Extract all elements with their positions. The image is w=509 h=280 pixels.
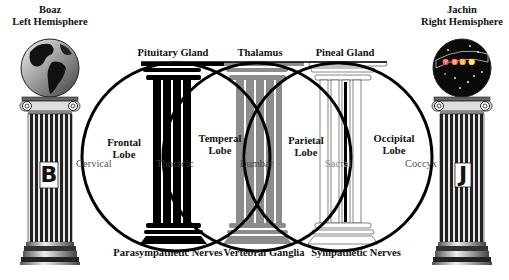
lumbar-label: Lumbar [240,158,273,170]
temperal-lobe-line2: Lobe [192,145,248,157]
parietal-lobe-label: Parietal Lobe [278,135,334,159]
white-pillar-core [344,82,347,222]
cervical-label: Cervical [76,158,112,170]
celestial-globe-icon: ♈ ♉ ♊ ♋ [433,39,491,97]
frontal-lobe-line1: Frontal [98,137,150,149]
jachin-subtitle: Right Hemisphere [418,16,506,28]
sympathetic-nerves-label: Sympathetic Nerves [296,247,416,259]
boaz-pillar [20,39,80,265]
pineal-gland-label: Pineal Gland [300,47,390,59]
svg-text:♈ ♉ ♊ ♋: ♈ ♉ ♊ ♋ [442,58,476,66]
jachin-letter: J [455,164,471,186]
parietal-lobe-line1: Parietal [278,135,334,147]
occipital-lobe-label: Occipital Lobe [364,133,424,157]
sacral-label: Sacral [325,158,351,170]
thoracic-label: Thoracic [156,158,193,170]
jachin-pillar: ♈ ♉ ♊ ♋ [432,39,492,265]
boaz-subtitle: Left Hemisphere [8,16,92,28]
boaz-letter: B [40,164,58,186]
pituitary-gland-label: Pituitary Gland [118,47,228,59]
temperal-lobe-line1: Temperal [192,133,248,145]
temperal-lobe-label: Temperal Lobe [192,133,248,157]
jachin-name: Jachin [418,4,506,16]
boaz-title: Boaz Left Hemisphere [8,4,92,28]
jachin-title: Jachin Right Hemisphere [418,4,506,28]
terrestrial-globe-icon [21,39,79,97]
occipital-lobe-line1: Occipital [364,133,424,145]
coccyx-label: Coccyx [405,158,437,170]
thalamus-label: Thalamus [220,47,300,59]
occipital-lobe-line2: Lobe [364,145,424,157]
boaz-name: Boaz [8,4,92,16]
